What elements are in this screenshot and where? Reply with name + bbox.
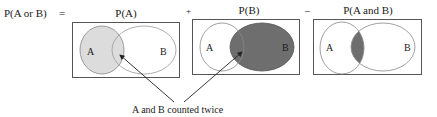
equals-sign: = bbox=[59, 7, 65, 19]
arrow-to-panel1-intersection bbox=[120, 55, 174, 102]
minus-sign: – bbox=[304, 5, 311, 16]
panel-title: P(A) bbox=[115, 7, 137, 20]
label-a: A bbox=[87, 46, 95, 57]
label-b: B bbox=[404, 42, 411, 53]
plus-sign: + bbox=[186, 6, 191, 16]
label-b: B bbox=[282, 42, 289, 53]
panel-title: P(A and B) bbox=[343, 4, 393, 17]
panel-p-a-and-b: P(A and B) A B bbox=[314, 4, 422, 75]
label-a: A bbox=[326, 42, 334, 53]
annotation-text: A and B counted twice bbox=[132, 104, 224, 115]
lhs-label: P(A or B) bbox=[4, 7, 47, 20]
panel-p-b: P(B) A B bbox=[193, 4, 300, 75]
label-a: A bbox=[206, 42, 214, 53]
panel-p-a: P(A) A B bbox=[73, 7, 180, 78]
venn-diagram-equation: P(A or B) = P(A) A B + P(B) A B – P(A an… bbox=[0, 0, 437, 117]
label-b: B bbox=[160, 46, 167, 57]
panel-title: P(B) bbox=[239, 4, 260, 17]
